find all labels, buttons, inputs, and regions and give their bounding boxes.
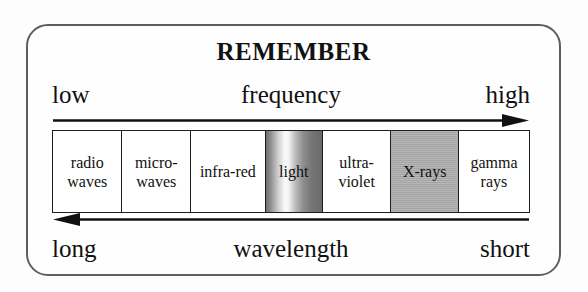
spectrum-band-infra-red[interactable]: infra-red [191,131,266,212]
spectrum-bar: radio waves micro- waves infra-red light… [52,130,530,213]
frequency-axis-label: frequency [52,81,530,109]
frequency-low-label: low [52,81,90,109]
frequency-label-row: low frequency high [52,81,530,111]
page-title: REMEMBER [26,38,561,66]
spectrum-band-label: ultra- violet [336,153,376,191]
arrow-right-icon [52,114,530,128]
spectrum-band-label: light [277,162,310,181]
wavelength-label-row: long wavelength short [52,235,530,265]
wavelength-short-label: short [480,235,530,263]
spectrum-band-radio-waves[interactable]: radio waves [53,131,122,212]
wavelength-axis-label: wavelength [52,235,530,263]
spectrum-band-label: X-rays [401,162,449,181]
wavelength-long-label: long [52,235,96,263]
frequency-high-label: high [486,81,530,109]
diagram-canvas: REMEMBER low frequency high radio waves … [0,0,588,292]
spectrum-band-gamma-rays[interactable]: gamma rays [459,131,529,212]
spectrum-band-label: radio waves [65,153,109,191]
spectrum-band-ultra-violet[interactable]: ultra- violet [323,131,392,212]
spectrum-band-light[interactable]: light [266,131,323,212]
spectrum-band-x-rays[interactable]: X-rays [391,131,459,212]
spectrum-band-label: gamma rays [468,153,519,191]
spectrum-band-micro-waves[interactable]: micro- waves [122,131,191,212]
spectrum-band-label: infra-red [198,162,258,181]
arrow-left-icon [52,213,530,227]
spectrum-band-label: micro- waves [133,153,180,191]
